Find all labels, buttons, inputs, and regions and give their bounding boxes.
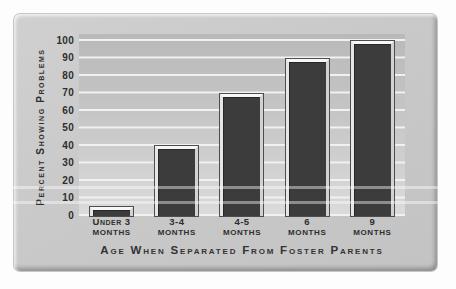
category-label-line1: 4-5	[209, 216, 274, 227]
y-tick-label: 40	[14, 139, 74, 152]
bar	[286, 59, 329, 217]
y-tick-label: 20	[14, 174, 74, 187]
category-labels-row: Under 3Months3-4Months4-5Months6Months9M…	[79, 216, 405, 238]
category-label: 3-4Months	[144, 216, 209, 238]
bar	[220, 94, 263, 217]
category-label-line2: Months	[340, 227, 405, 238]
category-label-line1: 9	[340, 216, 405, 227]
y-tick-label: 90	[14, 51, 74, 64]
y-tick-label: 70	[14, 86, 74, 99]
category-label-line1: Under 3	[79, 216, 144, 227]
page-background: Percent Showing Problems 100908070605040…	[0, 0, 456, 289]
category-label-line2: Months	[144, 227, 209, 238]
category-label-line1: 3-4	[144, 216, 209, 227]
bar	[351, 41, 394, 216]
y-tick-label: 80	[14, 69, 74, 82]
bar	[155, 146, 198, 216]
y-tick-label: 10	[14, 191, 74, 204]
y-tick-label: 100	[14, 34, 74, 47]
category-label-line2: Months	[209, 227, 274, 238]
y-tick-label: 30	[14, 156, 74, 169]
bar	[90, 207, 133, 216]
y-tick-label: 60	[14, 104, 74, 117]
y-tick-column: 1009080706050403020100	[14, 14, 74, 234]
chart-panel: Percent Showing Problems 100908070605040…	[14, 14, 437, 271]
x-axis-title: Age When Separated From Foster Parents	[79, 244, 405, 256]
category-label-line2: Months	[275, 227, 340, 238]
category-label: 6Months	[275, 216, 340, 238]
category-label: 4-5Months	[209, 216, 274, 238]
category-label: Under 3Months	[79, 216, 144, 238]
y-tick-label: 0	[14, 209, 74, 222]
category-label: 9Months	[340, 216, 405, 238]
category-label-line2: Months	[79, 227, 144, 238]
category-label-line1: 6	[275, 216, 340, 227]
plot-area	[79, 34, 405, 216]
y-tick-label: 50	[14, 121, 74, 134]
